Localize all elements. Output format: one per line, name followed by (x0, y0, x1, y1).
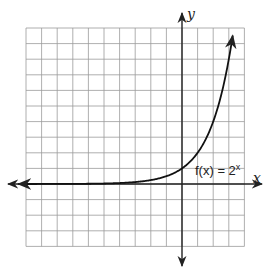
graph-figure: y x f(x) = 2x (0, 0, 273, 270)
function-label: f(x) = 2x (195, 162, 241, 178)
x-axis-label: x (253, 170, 261, 186)
grid-lines (26, 28, 244, 246)
function-curve (18, 36, 233, 184)
plot-svg: y x f(x) = 2x (0, 0, 273, 270)
y-axis-label: y (186, 6, 196, 22)
